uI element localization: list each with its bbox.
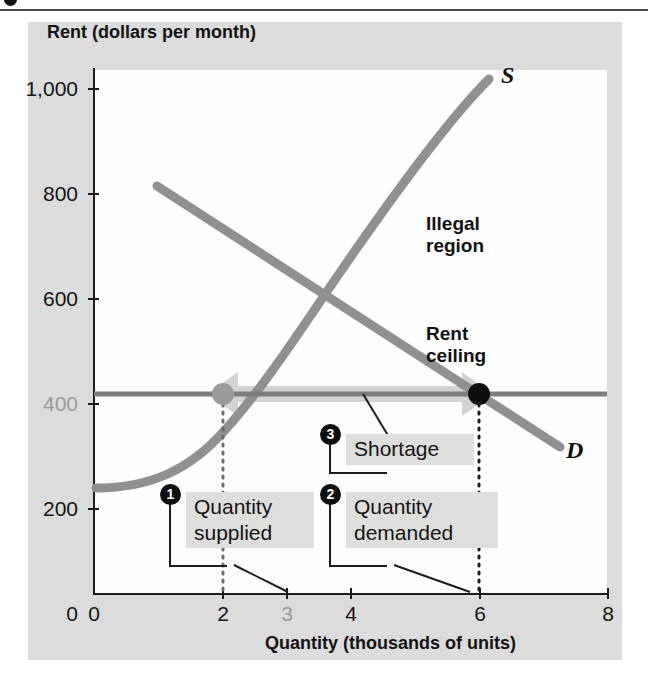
y-tick-400 bbox=[88, 403, 99, 405]
supply-curve-label: S bbox=[501, 62, 514, 89]
demand-curve-label: D bbox=[566, 437, 583, 464]
callout-badge-3: 3 bbox=[320, 424, 341, 445]
x-tick-4 bbox=[350, 588, 352, 599]
y-tick-label-200: 200 bbox=[20, 497, 78, 521]
illegal-region-line2: region bbox=[426, 235, 484, 257]
y-tick-1000 bbox=[88, 88, 99, 90]
x-tick-label-3: 3 bbox=[267, 602, 307, 626]
x-tick-6 bbox=[479, 588, 481, 599]
y-axis-title: Rent (dollars per month) bbox=[47, 22, 256, 43]
rent-ceiling-line2: ceiling bbox=[426, 345, 486, 367]
y-axis-line bbox=[93, 68, 95, 595]
figure-caption-sliver: 1 bbox=[0, 0, 648, 9]
callout-shortage-text: Shortage bbox=[346, 434, 474, 465]
y-tick-600 bbox=[88, 298, 99, 300]
caption-divider-rule bbox=[0, 9, 648, 11]
callout-badge-1: 1 bbox=[160, 484, 181, 505]
callout-demanded-text: Quantity demanded bbox=[346, 492, 498, 548]
illegal-region-label: Illegal region bbox=[426, 213, 484, 257]
x-tick-label-0: 0 bbox=[74, 602, 114, 626]
illegal-region-line1: Illegal bbox=[426, 213, 484, 235]
rent-ceiling-line1: Rent bbox=[426, 323, 486, 345]
x-tick-2 bbox=[222, 588, 224, 599]
y-tick-label-0: 0 bbox=[20, 602, 78, 626]
x-tick-label-6: 6 bbox=[460, 602, 500, 626]
y-tick-label-800: 800 bbox=[20, 182, 78, 206]
callout-badge-2: 2 bbox=[320, 484, 341, 505]
x-tick-8 bbox=[607, 588, 609, 599]
y-tick-label-400: 400 bbox=[20, 392, 78, 416]
caption-bullet-icon bbox=[4, 0, 17, 6]
x-tick-label-2: 2 bbox=[203, 602, 243, 626]
x-axis-title: Quantity (thousands of units) bbox=[265, 633, 516, 654]
y-tick-label-600: 600 bbox=[20, 287, 78, 311]
y-tick-label-1000: 1,000 bbox=[20, 77, 78, 101]
x-tick-label-4: 4 bbox=[331, 602, 371, 626]
x-tick-3 bbox=[286, 588, 288, 599]
y-tick-800 bbox=[88, 193, 99, 195]
y-tick-200 bbox=[88, 508, 99, 510]
x-tick-label-8: 8 bbox=[588, 602, 628, 626]
rent-ceiling-label: Rent ceiling bbox=[426, 323, 486, 367]
callout-supplied-text: Quantity supplied bbox=[186, 492, 314, 548]
